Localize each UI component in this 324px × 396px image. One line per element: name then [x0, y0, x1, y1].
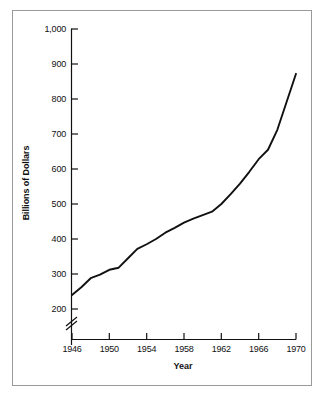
y-axis-ticks — [72, 29, 79, 309]
chart-figure: 1,000 900 800 700 600 500 400 300 200 19… — [0, 0, 324, 396]
x-tick-label: 1966 — [242, 344, 276, 354]
y-tick-label: 300 — [32, 269, 66, 279]
x-tick-label: 1962 — [204, 344, 238, 354]
y-axis-title: Billions of Dollars — [21, 135, 31, 231]
y-tick-label: 1,000 — [32, 24, 66, 34]
y-tick-label: 800 — [32, 94, 66, 104]
x-tick-label: 1954 — [130, 344, 164, 354]
x-axis-ticks — [72, 333, 296, 340]
y-tick-label: 400 — [32, 234, 66, 244]
y-tick-label: 600 — [32, 164, 66, 174]
x-tick-label: 1970 — [279, 344, 313, 354]
y-tick-label: 200 — [32, 304, 66, 314]
x-tick-label: 1946 — [55, 344, 89, 354]
y-tick-label: 500 — [32, 199, 66, 209]
y-tick-label: 700 — [32, 129, 66, 139]
data-series-line — [72, 74, 296, 295]
y-tick-label: 900 — [32, 59, 66, 69]
x-tick-label: 1950 — [92, 344, 126, 354]
x-axis-title: Year — [70, 361, 296, 371]
x-tick-label: 1958 — [167, 344, 201, 354]
